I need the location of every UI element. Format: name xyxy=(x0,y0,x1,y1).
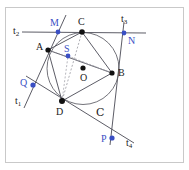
point-p[interactable] xyxy=(109,135,114,140)
label-point-m: M xyxy=(50,18,59,28)
point-b[interactable] xyxy=(109,70,114,75)
point-s[interactable] xyxy=(66,54,71,59)
geometry-canvas xyxy=(0,0,189,170)
point-a[interactable] xyxy=(45,47,50,52)
label-tangent-t2: t2 xyxy=(13,26,19,38)
label-point-n: N xyxy=(128,36,135,46)
label-tangent-t1: t1 xyxy=(15,96,21,108)
label-circle-c: C xyxy=(96,107,104,118)
geometry-figure: ABCDOSMNPQCt1t2t3t4 xyxy=(0,0,189,170)
label-point-b: B xyxy=(118,68,125,78)
label-point-c: C xyxy=(78,17,85,27)
point-d[interactable] xyxy=(59,98,65,104)
point-m[interactable] xyxy=(56,30,61,35)
point-o[interactable] xyxy=(80,65,85,70)
point-q[interactable] xyxy=(30,82,35,87)
label-point-q: Q xyxy=(20,78,27,88)
label-point-d: D xyxy=(56,107,63,117)
label-point-o: O xyxy=(80,73,87,83)
point-n[interactable] xyxy=(122,31,127,36)
tangent-subscript: 3 xyxy=(124,18,128,26)
tangent-subscript: 4 xyxy=(129,142,133,150)
label-tangent-t3: t3 xyxy=(121,14,127,26)
label-point-s: S xyxy=(64,44,70,54)
tangent-subscript: 1 xyxy=(18,100,22,108)
label-tangent-t4: t4 xyxy=(126,138,132,150)
label-point-p: P xyxy=(101,134,107,144)
label-point-a: A xyxy=(36,42,43,52)
point-c[interactable] xyxy=(79,29,85,35)
tangent-subscript: 2 xyxy=(16,30,20,38)
